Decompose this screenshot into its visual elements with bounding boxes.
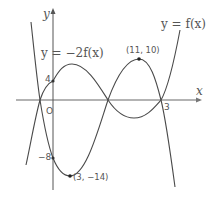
graph-figure: y x O y = −2f(x) y = f(x) 4 −8 3 (11, 10… bbox=[0, 0, 212, 198]
tick-label-3: 3 bbox=[164, 102, 170, 112]
x-axis-label: x bbox=[196, 84, 203, 98]
point-yneg8 bbox=[51, 156, 54, 159]
max-point-label: (11, 10) bbox=[126, 45, 160, 55]
tick-label-4: 4 bbox=[45, 74, 51, 84]
curve-neg2f-label: y = −2f(x) bbox=[40, 46, 104, 60]
point-max bbox=[137, 57, 141, 61]
tick-label-neg8: −8 bbox=[38, 152, 52, 162]
curve-f-label: y = f(x) bbox=[160, 17, 206, 31]
point-min bbox=[68, 174, 72, 178]
point-y4 bbox=[51, 79, 54, 82]
x-axis-arrow-icon bbox=[196, 98, 202, 103]
y-axis-label: y bbox=[42, 7, 50, 21]
origin-label: O bbox=[46, 106, 53, 116]
min-point-label: (3, −14) bbox=[73, 172, 108, 182]
y-axis-arrow-icon bbox=[51, 8, 56, 14]
